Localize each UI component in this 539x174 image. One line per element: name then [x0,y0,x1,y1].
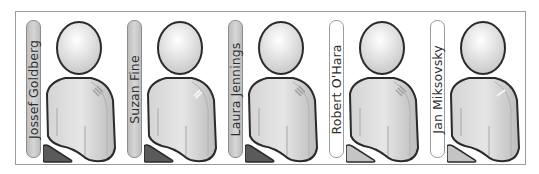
person-name: Robert O'Hara [329,44,344,134]
person-avatar-icon [245,16,321,164]
person-card-suzan-fine[interactable]: Suzan Fine [117,12,219,164]
people-strip: Jossef Goldberg Suzan Fine [15,11,526,165]
person-card-robert-ohara[interactable]: Robert O'Hara [319,12,421,164]
person-name: Suzan Fine [127,55,142,123]
person-name: Jan Miksovsky [430,45,445,133]
name-pill[interactable]: Jossef Goldberg [26,20,41,158]
person-name: Jossef Goldberg [26,39,41,138]
person-avatar-icon [346,16,422,164]
person-avatar-icon [43,16,119,164]
person-avatar-icon [144,16,220,164]
person-card-jossef-goldberg[interactable]: Jossef Goldberg [16,12,118,164]
name-pill[interactable]: Robert O'Hara [329,20,344,158]
name-pill[interactable]: Laura Jennings [228,20,243,158]
person-avatar-icon [447,16,523,164]
name-pill[interactable]: Jan Miksovsky [430,20,445,158]
name-pill[interactable]: Suzan Fine [127,20,142,158]
person-card-jan-miksovsky[interactable]: Jan Miksovsky [420,12,522,164]
person-name: Laura Jennings [228,42,243,136]
person-card-laura-jennings[interactable]: Laura Jennings [218,12,320,164]
